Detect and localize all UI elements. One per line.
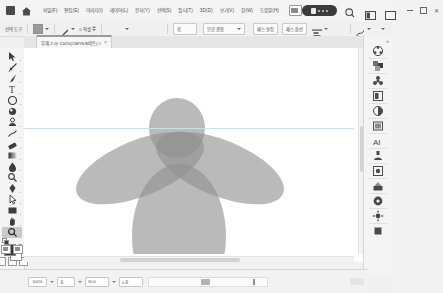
clone-stamp-tool[interactable]	[2, 117, 22, 128]
align-icon[interactable]	[312, 24, 322, 33]
quick-mask-icon[interactable]	[1, 245, 11, 254]
eyedropper-tool[interactable]	[2, 106, 22, 117]
maximize-icon[interactable]	[417, 5, 430, 16]
move-tool[interactable]	[2, 51, 22, 62]
close-icon[interactable]: ✕	[430, 5, 443, 16]
pen-tool[interactable]	[2, 183, 22, 194]
fill-chevron-down-icon[interactable]	[45, 28, 49, 30]
path-operations-icon[interactable]	[356, 24, 365, 33]
artboard[interactable]	[24, 48, 354, 254]
path-selection-tool[interactable]	[2, 194, 22, 205]
stepper-arrows[interactable]	[92, 26, 96, 31]
path-options-button[interactable]: 패스 옵션	[282, 23, 307, 35]
path-distribute-button[interactable]: 패스 설정	[253, 23, 278, 35]
eraser-tool[interactable]	[2, 139, 22, 150]
stroke-width-stepper[interactable]: 0 픽셀	[79, 26, 96, 32]
character-panel-icon[interactable]: AI	[366, 134, 390, 148]
bottom-left-corner	[0, 269, 25, 293]
home-icon[interactable]	[20, 4, 33, 17]
paragraph-panel-icon[interactable]	[366, 149, 390, 163]
path-ops-chevron-icon[interactable]	[367, 28, 371, 30]
libraries-panel-icon[interactable]	[366, 179, 390, 193]
info-panel-icon[interactable]	[366, 224, 390, 238]
horizontal-scroll-thumb[interactable]	[120, 258, 240, 262]
hand-tool[interactable]	[2, 216, 22, 227]
horizontal-scrollbar[interactable]	[24, 256, 354, 262]
status-chevron-1-icon[interactable]	[50, 281, 54, 283]
zoom-level-value: 100%	[32, 279, 42, 284]
color-panel-icon[interactable]	[366, 44, 390, 58]
horizontal-guide[interactable]	[24, 128, 354, 129]
standard-mode-icon[interactable]	[13, 245, 23, 254]
minimize-icon[interactable]	[404, 5, 417, 16]
actions-panel-icon[interactable]	[366, 209, 390, 223]
stroke-chevron-down-icon[interactable]	[71, 28, 75, 30]
status-chevron-2-icon[interactable]	[78, 281, 82, 283]
stroke-icon[interactable]	[60, 24, 69, 33]
menu-window[interactable]: 창(W)	[241, 7, 253, 15]
menu-file[interactable]: 파일(F)	[43, 7, 57, 15]
workspace-switcher-icon[interactable]	[365, 6, 376, 15]
swatches-panel-icon[interactable]	[366, 59, 390, 73]
blur-tool[interactable]	[2, 161, 22, 172]
fill-color-swatch[interactable]	[33, 24, 43, 34]
title-menu-bar: 파일(F) 편집(E) 이미지(I) 레이어(L) 문자(Y) 선택(S) 필터…	[0, 0, 392, 22]
healing-brush-tool[interactable]	[2, 128, 22, 139]
canvas-area[interactable]	[24, 48, 364, 262]
rectangle-tool[interactable]	[2, 205, 22, 216]
status-chevron-3-icon[interactable]	[112, 281, 116, 283]
doc-info-field-3[interactable]: 0 초	[119, 277, 143, 287]
path-align-dropdown[interactable]: 모양 결합	[203, 23, 245, 35]
options-overflow-icon[interactable]	[381, 28, 385, 30]
ellipse-shape-tool[interactable]	[2, 95, 22, 106]
align-chevron-icon[interactable]	[324, 28, 328, 30]
doc-info-value-3: 0 초	[122, 279, 129, 285]
svg-text:T: T	[9, 85, 15, 95]
timeline-track[interactable]	[148, 277, 268, 287]
active-tool-label: 선택 도구	[5, 26, 22, 32]
options-divider-5	[350, 24, 351, 34]
status-badge[interactable]	[302, 5, 337, 16]
gradients-panel-icon[interactable]	[366, 74, 390, 88]
menu-image[interactable]: 이미지(I)	[86, 7, 103, 15]
close-tab-icon[interactable]: ×	[104, 40, 107, 45]
shape-combine-dropdown[interactable]: 획	[173, 23, 197, 35]
default-colors-icon[interactable]	[2, 238, 7, 243]
stroke-width-value: 0 픽셀	[79, 26, 91, 32]
patterns-panel-icon[interactable]	[366, 89, 390, 103]
menu-help[interactable]: 도움말(H)	[260, 7, 279, 15]
zoom-tool[interactable]	[2, 227, 22, 238]
lasso-tool[interactable]	[2, 62, 22, 73]
status-chip[interactable]	[350, 278, 364, 285]
right-panel-dock: « AI	[363, 36, 392, 275]
document-tab[interactable]: 무제-2 @ 150%(CMYK/8비트) # ×	[36, 35, 112, 48]
timeline-clip[interactable]	[201, 279, 210, 285]
gradient-tool[interactable]	[2, 150, 22, 161]
playhead-marker[interactable]	[253, 279, 255, 285]
search-icon[interactable]	[344, 5, 356, 17]
menu-type[interactable]: 문자(Y)	[135, 7, 150, 15]
menu-3d[interactable]: 3D(D)	[200, 7, 213, 15]
properties-panel-icon[interactable]	[366, 164, 390, 178]
brush-tool[interactable]	[2, 73, 22, 84]
badge-dot-3	[326, 10, 328, 12]
stroke-style-chevron-icon[interactable]	[125, 28, 129, 30]
path-align-chevron-icon	[237, 28, 241, 30]
adjustments-panel-icon[interactable]	[366, 104, 390, 118]
panel-toggle-icon[interactable]	[385, 6, 396, 15]
screen-mode-icon[interactable]	[0, 257, 6, 266]
doc-info-field-2[interactable]: 30.0	[85, 277, 109, 287]
type-tool[interactable]: T	[2, 84, 22, 95]
doc-info-field-1[interactable]: 초	[57, 277, 75, 287]
menu-edit[interactable]: 편집(E)	[64, 7, 79, 15]
zoom-level-field[interactable]: 100%	[28, 277, 47, 287]
menu-view[interactable]: 보기(V)	[220, 7, 235, 15]
arrange-documents-icon[interactable]	[289, 5, 302, 16]
menu-layer[interactable]: 레이어(L)	[110, 7, 128, 15]
dodge-tool[interactable]	[2, 172, 22, 183]
path-distribute-label: 패스 설정	[257, 26, 274, 32]
menu-select[interactable]: 선택(S)	[157, 7, 172, 15]
styles-panel-icon[interactable]	[366, 119, 390, 133]
menu-filter[interactable]: 필터(T)	[178, 7, 192, 15]
history-panel-icon[interactable]	[366, 194, 390, 208]
